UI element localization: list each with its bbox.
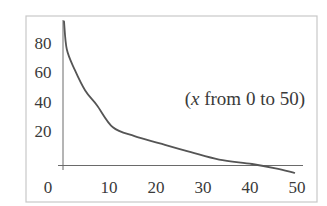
y-tick-label-60: 60	[35, 63, 52, 82]
chart: 01020304050 20406080 (x from 0 to 50)	[0, 0, 327, 206]
x-tick-label-40: 40	[242, 178, 259, 197]
y-tick-label-40: 40	[35, 93, 52, 112]
x-tick-label-0: 0	[44, 178, 53, 197]
x-tick-labels: 01020304050	[44, 178, 306, 197]
y-tick-label-20: 20	[35, 122, 52, 141]
annotation-suffix: from 0 to 50)	[199, 88, 305, 110]
annotation-x-range: (x from 0 to 50)	[185, 88, 305, 110]
x-tick-label-30: 30	[195, 178, 212, 197]
y-tick-labels: 20406080	[35, 34, 52, 141]
x-tick-label-50: 50	[289, 178, 306, 197]
x-tick-label-10: 10	[101, 178, 118, 197]
x-tick-label-20: 20	[148, 178, 165, 197]
y-tick-label-80: 80	[35, 34, 52, 53]
chart-frame	[26, 16, 317, 202]
